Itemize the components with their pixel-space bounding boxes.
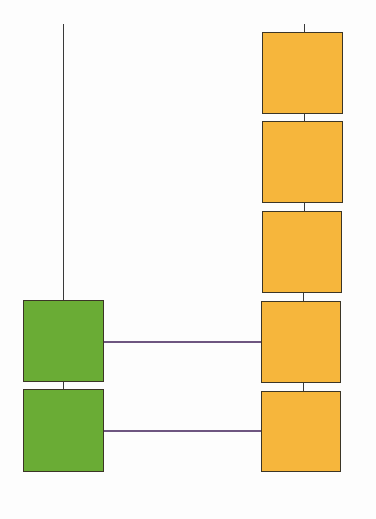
orange-block-3 [262,211,342,293]
green-connector [63,382,64,389]
link-green2-orange5 [104,430,261,432]
orange-connector-2-3 [304,203,305,211]
right-chain-stem [304,24,305,32]
left-chain-stem [63,24,64,300]
green-block-2 [23,389,104,472]
orange-connector-1-2 [304,114,305,121]
orange-block-2 [262,121,343,203]
green-block-1 [23,300,104,382]
orange-block-5 [261,391,341,472]
diagram-canvas [0,0,376,519]
orange-block-1 [262,32,343,114]
orange-connector-3-4 [303,293,304,301]
orange-block-4 [261,301,341,383]
orange-connector-4-5 [303,383,304,391]
link-green1-orange4 [104,341,261,343]
